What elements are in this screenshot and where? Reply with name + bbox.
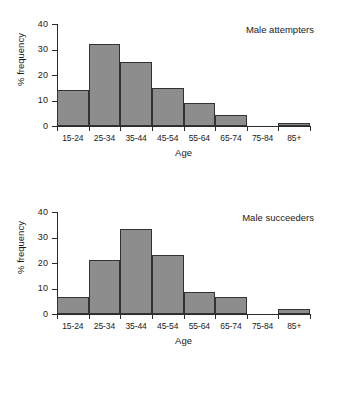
y-axis-tick-label: 40 <box>8 20 48 29</box>
bars-group-male-succeeders <box>57 212 310 314</box>
histogram-bar <box>89 44 121 126</box>
y-axis-title: % frequency <box>15 212 26 284</box>
y-axis-tick-label: 10 <box>8 284 48 293</box>
y-axis-tick-label: 10 <box>8 96 48 105</box>
y-axis-tick-label: 40 <box>8 208 48 217</box>
x-axis-tick <box>57 127 58 131</box>
x-axis-tick-label: 55-64 <box>184 133 216 143</box>
x-axis-tick <box>310 315 311 319</box>
histogram-bar <box>215 115 247 126</box>
x-axis-tick <box>247 127 248 131</box>
chart-panel-male-attempters: Male attempters % frequency 403020100 15… <box>0 8 342 168</box>
x-axis-tick <box>310 127 311 131</box>
x-axis-tick-label: 85+ <box>278 133 310 143</box>
x-axis-tick-labels: 15-2425-3435-4445-5455-6465-7475-8485+ <box>57 321 310 333</box>
x-axis-tick <box>215 127 216 131</box>
y-axis-tick-label: 20 <box>8 259 48 268</box>
x-axis-tick-label: 45-54 <box>152 133 184 143</box>
x-axis-tick <box>215 315 216 319</box>
histogram-bar <box>278 123 310 126</box>
y-axis-tick-label: 30 <box>8 233 48 242</box>
x-axis-tick <box>120 315 121 319</box>
x-axis-tick-label: 65-74 <box>215 133 247 143</box>
x-axis-tick <box>152 315 153 319</box>
x-axis-tick-label: 45-54 <box>152 321 184 331</box>
histogram-bar <box>184 292 216 314</box>
histogram-bar <box>120 229 152 314</box>
y-axis-tick-label: 30 <box>8 45 48 54</box>
histogram-bar <box>57 297 89 314</box>
x-axis-tick <box>152 127 153 131</box>
x-axis-tick-label: 55-64 <box>184 321 216 331</box>
x-axis-tick-labels: 15-2425-3435-4445-5455-6465-7475-8485+ <box>57 133 310 145</box>
x-axis-tick <box>89 315 90 319</box>
x-axis-tick-label: 65-74 <box>215 321 247 331</box>
y-axis-title: % frequency <box>15 24 26 96</box>
x-axis-tick <box>278 315 279 319</box>
histogram-bar <box>184 103 216 126</box>
x-axis-tick-label: 15-24 <box>57 321 89 331</box>
x-axis-tick <box>278 127 279 131</box>
x-axis-tick <box>184 315 185 319</box>
x-axis-tick-label: 35-44 <box>120 321 152 331</box>
bars-group-male-attempters <box>57 24 310 126</box>
x-axis-title: Age <box>57 147 310 158</box>
x-axis-tick-label: 25-34 <box>89 321 121 331</box>
chart-panel-male-succeeders: Male succeeders % frequency 403020100 15… <box>0 196 342 356</box>
histogram-bar <box>89 260 121 314</box>
y-axis-tick-label: 0 <box>8 122 48 131</box>
histogram-bar <box>152 255 184 314</box>
x-axis-tick <box>120 127 121 131</box>
x-axis-tick-label: 15-24 <box>57 133 89 143</box>
x-axis-tick <box>57 315 58 319</box>
histogram-bar <box>278 309 310 314</box>
y-axis-tick-label: 0 <box>8 310 48 319</box>
x-axis-tick-label: 25-34 <box>89 133 121 143</box>
x-axis-tick-label: 35-44 <box>120 133 152 143</box>
x-axis-tick-label: 75-84 <box>247 133 279 143</box>
x-axis-tick-label: 75-84 <box>247 321 279 331</box>
x-axis-title: Age <box>57 335 310 346</box>
histogram-bar <box>120 62 152 126</box>
histogram-bar <box>152 88 184 126</box>
histogram-bar <box>57 90 89 126</box>
y-axis-tick-label: 20 <box>8 71 48 80</box>
x-axis-tick <box>184 127 185 131</box>
x-axis-tick-label: 85+ <box>278 321 310 331</box>
x-axis-tick <box>89 127 90 131</box>
figure-two-histograms: Male attempters % frequency 403020100 15… <box>0 0 342 405</box>
histogram-bar <box>215 297 247 314</box>
x-axis-tick <box>247 315 248 319</box>
